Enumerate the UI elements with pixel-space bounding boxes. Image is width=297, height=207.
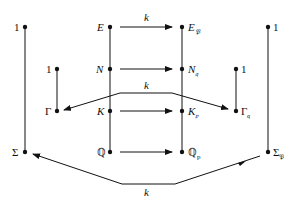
edge-label-bottom-k: k (144, 186, 150, 198)
label-gamma: Γ (45, 105, 51, 117)
label-left-top: 1 (14, 21, 20, 33)
label-K: K (96, 105, 105, 117)
label-Kp: K𝔭 (187, 105, 199, 120)
label-E: E (96, 21, 104, 33)
label-gamma-q: Γ𝔮 (241, 105, 250, 120)
label-N: N (95, 63, 104, 75)
label-EP: E𝔓 (187, 21, 201, 36)
bottom-bent-arrow (33, 154, 260, 184)
label-inner-left-top: 1 (46, 63, 52, 75)
label-Q: ℚ (97, 146, 106, 158)
label-sigma-P: Σ𝔓 (273, 146, 284, 161)
edge-label-top-k: k (144, 11, 150, 23)
edge-label-middle-k: k (144, 79, 150, 91)
label-inner-right-top: 1 (241, 63, 247, 75)
label-Nq: N𝔮 (187, 63, 199, 78)
label-sigma: Σ (12, 146, 18, 158)
label-Qp: ℚp (188, 146, 201, 161)
label-right-top: 1 (273, 21, 279, 33)
middle-bent-arrow (64, 93, 228, 110)
diagram-canvas: 1 Σ 1 Γ E N K ℚ E𝔓 N𝔮 K𝔭 ℚp 1 Γ𝔮 1 Σ𝔓 k … (0, 0, 297, 207)
